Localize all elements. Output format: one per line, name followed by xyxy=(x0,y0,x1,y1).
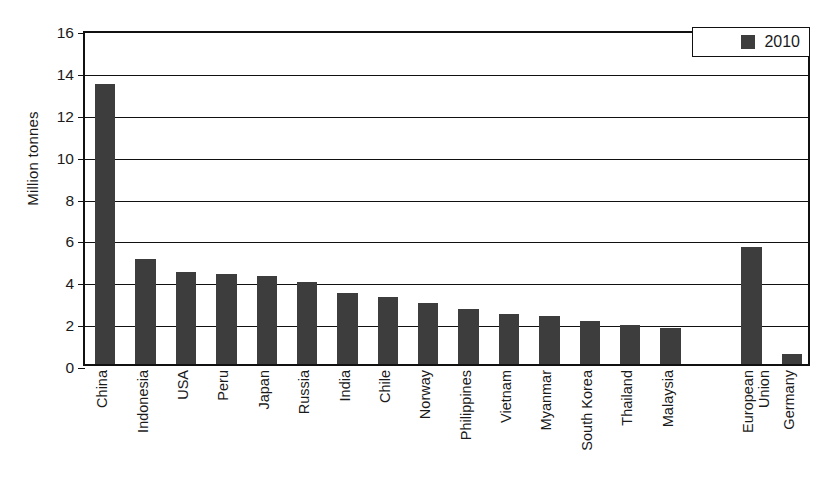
y-tick-label-6: 6 xyxy=(65,233,74,251)
y-axis-title: Million tonnes xyxy=(24,89,41,229)
bar xyxy=(458,309,478,364)
bars xyxy=(85,33,808,364)
x-axis-label: Russia xyxy=(296,370,312,414)
y-tick-label-16: 16 xyxy=(57,24,74,42)
x-axis-label: South Korea xyxy=(579,370,595,451)
bar xyxy=(660,328,680,364)
bar xyxy=(257,276,277,364)
x-axis-label: Peru xyxy=(215,370,231,401)
x-axis-labels: ChinaIndonesiaUSAPeruJapanRussiaIndiaChi… xyxy=(83,370,810,495)
x-axis-label: Thailand xyxy=(619,370,635,426)
x-axis-label: Philippines xyxy=(458,370,474,440)
y-tick-label-8: 8 xyxy=(65,192,74,210)
legend-label-2010: 2010 xyxy=(764,33,800,51)
x-axis-label: Germany xyxy=(781,370,797,430)
bar xyxy=(337,293,357,364)
bar xyxy=(499,314,519,364)
x-axis-label: Japan xyxy=(256,370,272,410)
y-tick-12 xyxy=(78,117,85,118)
y-tick-4 xyxy=(78,284,85,285)
bar xyxy=(95,84,115,364)
bar xyxy=(539,316,559,364)
y-tick-label-14: 14 xyxy=(57,66,74,84)
legend-swatch-2010 xyxy=(741,35,755,49)
bar xyxy=(216,274,236,364)
x-axis-label: India xyxy=(337,370,353,401)
bar xyxy=(297,282,317,364)
x-axis-label: Norway xyxy=(417,370,433,419)
x-axis-label: Chile xyxy=(377,370,393,403)
legend: 2010 xyxy=(692,27,810,57)
x-axis-label: China xyxy=(94,370,110,408)
bar xyxy=(135,259,155,364)
bar xyxy=(741,247,761,364)
x-axis-label: Malaysia xyxy=(660,370,676,427)
y-tick-label-10: 10 xyxy=(57,150,74,168)
bar xyxy=(580,321,600,364)
y-tick-label-12: 12 xyxy=(57,108,74,126)
bar xyxy=(378,297,398,364)
bar xyxy=(176,272,196,364)
y-tick-0 xyxy=(78,368,85,369)
bar xyxy=(620,325,640,364)
y-tick-label-0: 0 xyxy=(65,359,74,377)
y-tick-6 xyxy=(78,242,85,243)
y-tick-16 xyxy=(78,33,85,34)
x-axis-label: European Union xyxy=(740,370,772,433)
y-tick-10 xyxy=(78,159,85,160)
y-tick-label-4: 4 xyxy=(65,275,74,293)
y-tick-2 xyxy=(78,326,85,327)
y-tick-8 xyxy=(78,201,85,202)
x-axis-label: USA xyxy=(175,370,191,400)
x-axis-label: Indonesia xyxy=(135,370,151,433)
bar-chart: Million tonnes 0246810121416 2010 ChinaI… xyxy=(0,0,835,495)
x-axis-label: Vietnam xyxy=(498,370,514,423)
bar xyxy=(418,303,438,364)
bar xyxy=(782,354,802,364)
plot-area: 0246810121416 xyxy=(83,31,810,366)
y-tick-14 xyxy=(78,75,85,76)
y-tick-label-2: 2 xyxy=(65,317,74,335)
x-axis-label: Myanmar xyxy=(538,370,554,430)
